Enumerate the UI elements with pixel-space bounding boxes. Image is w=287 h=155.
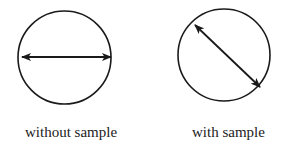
label-without-sample: without sample xyxy=(25,125,117,140)
double-arrow-diagonal-icon xyxy=(195,25,260,87)
label-with-sample: with sample xyxy=(192,125,265,140)
panel-with-sample xyxy=(178,9,270,101)
panel-without-sample xyxy=(18,11,111,104)
circle-with-sample xyxy=(178,9,270,101)
